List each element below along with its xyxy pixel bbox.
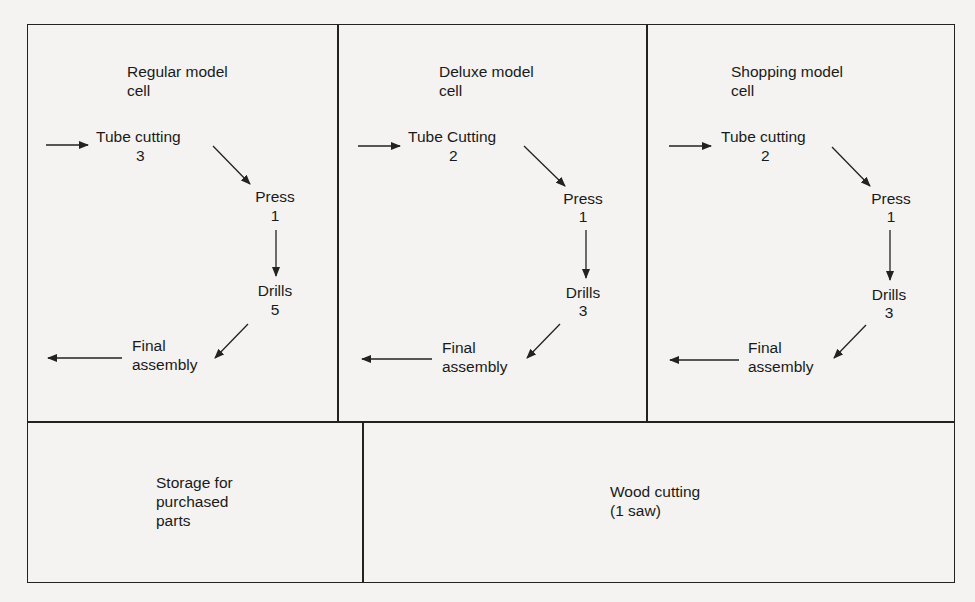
step-drills-count: 5 [250,300,300,319]
step-final-2: assembly [132,355,197,374]
divider-deluxe-shopping [646,24,648,422]
step-final: Final [442,338,476,357]
cell-title-2: cell [127,81,150,100]
step-drills-count: 3 [864,303,914,322]
wood-label-2: (1 saw) [610,501,661,520]
step-final: Final [748,338,782,357]
step-press: Press [563,189,603,208]
step-press-count: 1 [563,207,603,226]
step-tube-cutting: Tube Cutting [408,127,496,146]
step-final-2: assembly [748,357,813,376]
step-tube-cutting: Tube cutting [96,127,181,146]
cell-title: Deluxe model [439,62,534,81]
storage-label-3: parts [156,511,190,530]
divider-storage-wood [362,421,364,582]
step-drills: Drills [558,283,608,302]
step-drills-count: 3 [558,301,608,320]
storage-label-2: purchased [156,492,228,511]
step-drills: Drills [250,281,300,300]
cell-title-2: cell [731,81,754,100]
cell-title: Regular model [127,62,228,81]
step-tube-cutting-count: 2 [761,146,770,165]
divider-horizontal [27,421,955,423]
step-press-count: 1 [871,207,911,226]
step-tube-cutting-count: 3 [136,146,145,165]
step-final: Final [132,336,166,355]
step-final-2: assembly [442,357,507,376]
wood-label-1: Wood cutting [610,482,700,501]
step-tube-cutting: Tube cutting [721,127,806,146]
cell-title-2: cell [439,81,462,100]
step-tube-cutting-count: 2 [449,146,458,165]
step-drills: Drills [864,285,914,304]
storage-label-1: Storage for [156,473,233,492]
divider-regular-deluxe [337,24,339,422]
step-press: Press [255,187,295,206]
step-press-count: 1 [255,206,295,225]
cell-title: Shopping model [731,62,843,81]
step-press: Press [871,189,911,208]
